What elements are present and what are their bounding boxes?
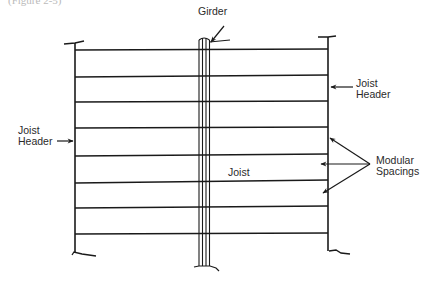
spacing-arrow-bottom xyxy=(323,164,370,193)
modular-spacings-label-line2: Spacings xyxy=(376,166,419,177)
joists xyxy=(75,49,328,234)
spacing-arrow-top xyxy=(330,138,370,164)
girder-arrow xyxy=(211,26,224,42)
girder-label: Girder xyxy=(198,6,227,17)
right-joist-header-label-line2: Header xyxy=(356,89,390,100)
left-joist-header xyxy=(64,41,96,256)
left-joist-header-label-line2: Header xyxy=(18,136,52,147)
annotation-arrows xyxy=(57,26,370,193)
joist-label: Joist xyxy=(228,167,250,178)
floor-framing-diagram xyxy=(0,0,438,286)
right-joist-header xyxy=(318,36,350,254)
